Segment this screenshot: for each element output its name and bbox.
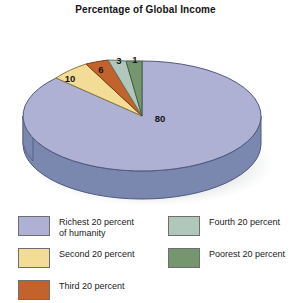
pie-label-poorest: 1 — [132, 54, 138, 65]
legend-item-third-20-percent[interactable]: Third 20 percent — [18, 280, 158, 302]
pie-label-fourth: 3 — [116, 55, 121, 66]
legend-item-richest-20-percent[interactable]: Richest 20 percent of humanity — [18, 216, 158, 238]
legend-swatch-fourth-icon — [168, 216, 200, 236]
legend-label-third: Third 20 percent — [59, 280, 125, 292]
legend-swatch-third-icon — [18, 280, 50, 300]
pie-label-second: 10 — [65, 73, 76, 84]
legend-label-poorest: Poorest 20 percent — [209, 248, 285, 260]
pie-label-richest: 80 — [155, 113, 166, 124]
legend-label-second: Second 20 percent — [59, 248, 135, 260]
legend-item-poorest-20-percent[interactable]: Poorest 20 percent — [168, 248, 291, 270]
page-title: Percentage of Global Income — [0, 4, 291, 15]
legend-item-fourth-20-percent[interactable]: Fourth 20 percent — [168, 216, 291, 238]
pie-chart-figure: Percentage of Global Income — [0, 0, 291, 303]
pie-label-third: 6 — [98, 64, 103, 75]
chart-legend: Richest 20 percent of humanity Second 20… — [18, 216, 280, 300]
legend-swatch-second-icon — [18, 248, 50, 268]
pie-chart-svg: 80 10 6 3 1 — [0, 16, 291, 212]
legend-label-fourth: Fourth 20 percent — [209, 216, 280, 228]
legend-column-right: Fourth 20 percent Poorest 20 percent — [168, 216, 291, 280]
legend-item-second-20-percent[interactable]: Second 20 percent — [18, 248, 158, 270]
legend-swatch-richest-icon — [18, 216, 50, 236]
legend-label-richest: Richest 20 percent of humanity — [59, 216, 134, 238]
legend-column-left: Richest 20 percent of humanity Second 20… — [18, 216, 158, 303]
pie-chart-plot: 80 10 6 3 1 — [0, 16, 291, 212]
legend-swatch-poorest-icon — [168, 248, 200, 268]
